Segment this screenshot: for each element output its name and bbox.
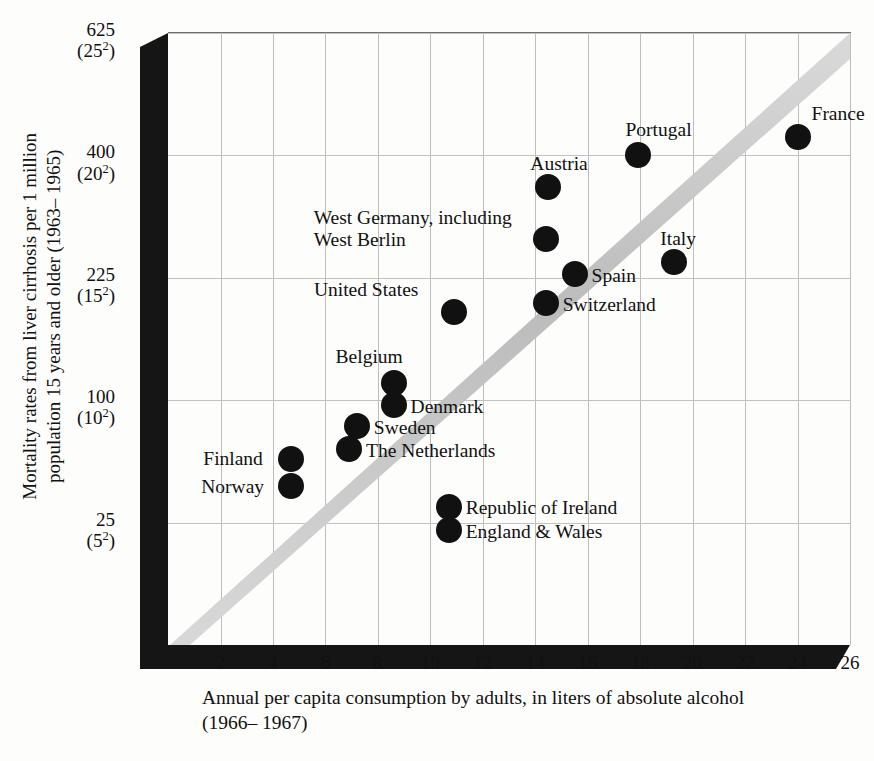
- chart-canvas: Mortality rates from liver cirrhosis per…: [0, 0, 874, 761]
- data-point-the-netherlands[interactable]: [336, 436, 362, 462]
- x-tick-20: 20: [673, 652, 713, 674]
- plot-area: [168, 33, 850, 645]
- y-axis-title-line2: population 15 years and older (1963– 196…: [42, 56, 66, 576]
- x-axis-title-line2: (1966– 1967): [202, 711, 744, 736]
- x-tick-22: 22: [725, 652, 765, 674]
- x-axis-title-line1: Annual per capita consumption by adults,…: [202, 686, 744, 711]
- data-point-denmark[interactable]: [381, 392, 407, 418]
- y-axis-bar: [140, 33, 168, 645]
- label-republic-of-ireland: Republic of Ireland: [466, 497, 618, 519]
- label-switzerland: Switzerland: [563, 294, 656, 316]
- x-tick-2: 2: [200, 652, 240, 674]
- y-tick-25: 25(52): [25, 510, 115, 552]
- data-point-west-germany-including-west-berlin[interactable]: [533, 226, 559, 252]
- label-norway: Norway: [201, 476, 264, 498]
- data-point-france[interactable]: [785, 124, 811, 150]
- x-tick-26: 26: [830, 652, 870, 674]
- data-point-italy[interactable]: [661, 249, 687, 275]
- x-tick-8: 8: [358, 652, 398, 674]
- label-belgium: Belgium: [336, 346, 403, 368]
- x-tick-6: 6: [305, 652, 345, 674]
- label-the-netherlands: The Netherlands: [366, 440, 495, 462]
- label-austria: Austria: [530, 153, 587, 175]
- trend-band: [168, 33, 850, 645]
- y-axis-title: Mortality rates from liver cirrhosis per…: [18, 56, 67, 576]
- x-tick-4: 4: [253, 652, 293, 674]
- y-tick-100: 100(102): [25, 387, 115, 429]
- label-finland: Finland: [203, 448, 263, 470]
- data-point-norway[interactable]: [278, 473, 304, 499]
- x-axis-title: Annual per capita consumption by adults,…: [202, 686, 744, 735]
- x-tick-14: 14: [515, 652, 555, 674]
- y-tick-225: 225(152): [25, 265, 115, 307]
- y-tick-625: 625(252): [25, 20, 115, 62]
- data-point-spain[interactable]: [562, 261, 588, 287]
- label-italy: Italy: [660, 228, 696, 250]
- data-point-england-wales[interactable]: [436, 517, 462, 543]
- label-sweden: Sweden: [374, 417, 436, 439]
- data-point-finland[interactable]: [278, 446, 304, 472]
- x-tick-18: 18: [620, 652, 660, 674]
- x-tick-16: 16: [568, 652, 608, 674]
- x-tick-10: 10: [410, 652, 450, 674]
- data-point-republic-of-ireland[interactable]: [436, 494, 462, 520]
- label-west-germany-line2: West Berlin: [314, 229, 512, 251]
- label-portugal: Portugal: [626, 119, 692, 141]
- data-point-austria[interactable]: [535, 174, 561, 200]
- y-tick-400: 400(202): [25, 142, 115, 184]
- label-england-wales: England & Wales: [466, 521, 603, 543]
- data-point-sweden[interactable]: [344, 413, 370, 439]
- label-denmark: Denmark: [411, 396, 484, 418]
- label-france: France: [812, 103, 865, 125]
- label-united-states: United States: [314, 279, 419, 301]
- label-spain: Spain: [592, 265, 636, 287]
- data-point-united-states[interactable]: [441, 299, 467, 325]
- data-point-switzerland[interactable]: [533, 290, 559, 316]
- y-axis-title-line1: Mortality rates from liver cirrhosis per…: [18, 56, 42, 576]
- label-west-germany-including-west-berlin: West Germany, includingWest Berlin: [314, 207, 512, 251]
- x-tick-24: 24: [778, 652, 818, 674]
- label-west-germany-line1: West Germany, including: [314, 207, 512, 229]
- data-point-portugal[interactable]: [625, 142, 651, 168]
- x-tick-12: 12: [463, 652, 503, 674]
